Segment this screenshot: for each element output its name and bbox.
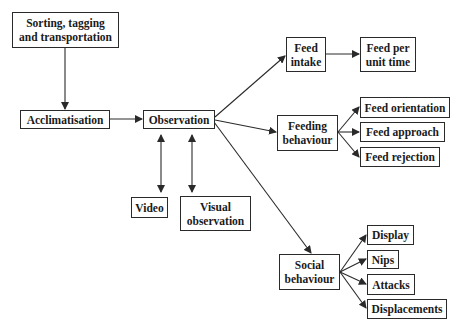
node-observation: Observation	[143, 110, 215, 129]
node-feed-rejection: Feed rejection	[360, 147, 440, 167]
node-feeding-behaviour: Feeding behaviour	[277, 115, 338, 151]
flow-diagram: Sorting, tagging and transportation Accl…	[0, 0, 467, 333]
node-acclimatisation: Acclimatisation	[20, 110, 110, 129]
node-attacks: Attacks	[367, 274, 415, 295]
edge-feeding-orientation	[338, 107, 359, 132]
node-feed-approach: Feed approach	[360, 122, 445, 142]
node-visual-observation: Visual observation	[180, 196, 251, 231]
edge-observation-feeding-behaviour	[215, 120, 276, 132]
edge-observation-feed-intake	[215, 56, 285, 117]
edge-feeding-rejection	[338, 132, 359, 157]
node-display: Display	[367, 225, 414, 245]
node-feed-intake: Feed intake	[286, 37, 326, 72]
node-nips: Nips	[367, 250, 399, 269]
node-feed-per-unit-time: Feed per unit time	[360, 37, 416, 72]
edge-social-display	[340, 235, 366, 272]
node-feed-orientation: Feed orientation	[360, 97, 450, 118]
node-sorting-tagging-transportation: Sorting, tagging and transportation	[12, 12, 119, 48]
node-displacements: Displacements	[367, 299, 447, 319]
node-video: Video	[131, 197, 168, 218]
node-social-behaviour: Social behaviour	[279, 254, 340, 290]
